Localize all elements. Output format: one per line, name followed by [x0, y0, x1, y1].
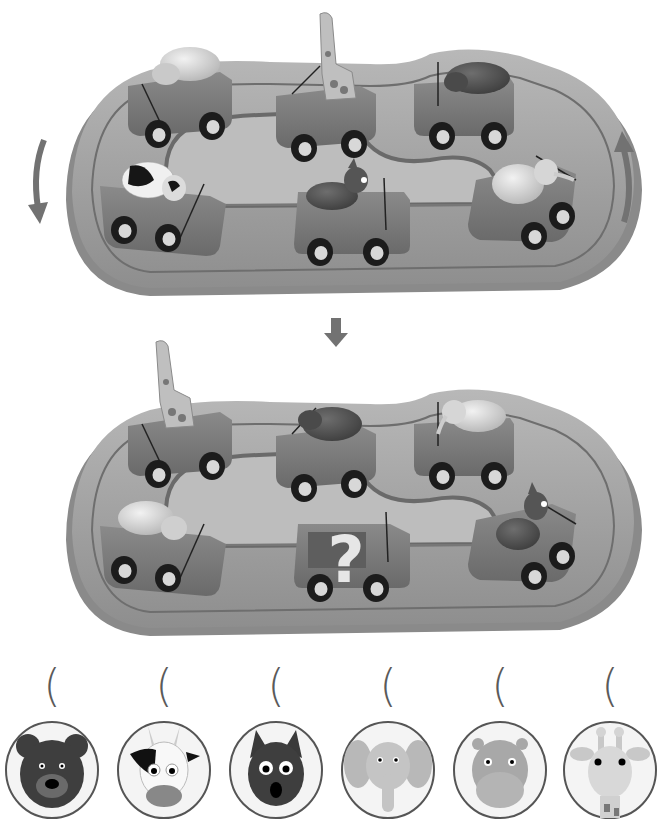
- answer-options: ( ) ( ) ( ): [0, 658, 664, 825]
- option-hippo[interactable]: ( ): [450, 658, 550, 825]
- option-giraffe[interactable]: ( ): [560, 658, 660, 825]
- cow-icon: [116, 720, 212, 820]
- elephant-icon: [340, 720, 436, 820]
- bear-icon: [4, 720, 100, 820]
- giraffe-figure: [320, 13, 356, 100]
- car-top-left: [128, 47, 232, 148]
- question-mark: ?: [327, 523, 364, 597]
- scene-after: ?: [0, 340, 664, 650]
- giraffe-icon: [562, 720, 658, 820]
- rotation-arrow-left: [28, 140, 48, 224]
- hippo-icon: [452, 720, 548, 820]
- option-wolf[interactable]: ( ): [226, 658, 326, 825]
- scene-before: [0, 0, 664, 310]
- wolf-icon: [228, 720, 324, 820]
- option-elephant[interactable]: ( ): [338, 658, 438, 825]
- option-cow[interactable]: ( ): [114, 658, 214, 825]
- option-bear[interactable]: ( ): [2, 658, 102, 825]
